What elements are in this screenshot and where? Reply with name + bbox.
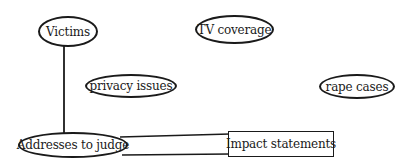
node-rape-cases[interactable]: rape cases <box>319 74 395 99</box>
edge-addresses-impact-bottom <box>122 154 230 155</box>
node-label: TV coverage <box>198 23 272 37</box>
node-label: privacy issues <box>90 79 173 93</box>
node-label: Impact statements <box>226 137 336 151</box>
node-victims[interactable]: Victims <box>38 16 98 47</box>
node-impact-statements[interactable]: Impact statements <box>228 131 334 157</box>
node-tv-coverage[interactable]: TV coverage <box>195 15 274 44</box>
edge-addresses-impact-top <box>120 134 230 137</box>
node-label: Victims <box>46 25 90 39</box>
node-privacy-issues[interactable]: privacy issues <box>85 74 177 98</box>
node-label: Addresses to judge <box>17 138 129 152</box>
node-label: rape cases <box>326 80 389 94</box>
node-addresses-to-judge[interactable]: Addresses to judge <box>18 132 128 158</box>
